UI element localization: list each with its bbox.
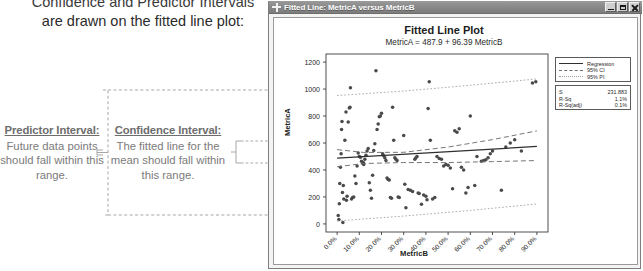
stats-key-rsqadj: R-Sq(adj) <box>559 102 599 108</box>
data-point <box>341 221 345 225</box>
data-point <box>473 184 477 188</box>
data-point <box>346 120 350 124</box>
callout-confidence-interval-title: Confidence Interval: <box>106 123 230 138</box>
stats-key-rsq: R-Sq <box>559 96 599 102</box>
data-point <box>509 141 513 145</box>
data-point <box>457 127 461 131</box>
stats-row: R-Sq(adj) 0.1% <box>559 102 627 109</box>
y-tick-label: 800 <box>308 113 320 120</box>
stats-row: R-Sq 1.1% <box>559 95 627 102</box>
window-title: Fitted Line: MetricA versus MetricB <box>284 3 414 12</box>
data-point <box>345 195 349 199</box>
data-point <box>531 81 535 85</box>
plot-svg: 0200400600800100012000.0%10.0%20.0%30.0%… <box>274 18 638 265</box>
data-point <box>370 197 374 201</box>
data-point <box>375 128 379 131</box>
x-tick-label: 80.0% <box>497 235 515 253</box>
data-point <box>338 182 342 186</box>
graph-canvas[interactable]: Fitted Line Plot MetricA = 487.9 + 96.39… <box>273 17 638 265</box>
data-point <box>342 184 346 188</box>
x-tick-label: 30.0% <box>386 235 404 253</box>
page-heading-line1: Confidence and Predictor Intervals <box>18 0 268 12</box>
data-point <box>534 80 538 84</box>
data-point <box>500 188 504 192</box>
window-titlebar[interactable]: Fitted Line: MetricA versus MetricB <box>269 1 642 14</box>
data-point <box>344 110 348 114</box>
x-tick-label: 40.0% <box>408 235 426 253</box>
data-point <box>404 206 408 210</box>
legend-label-pi: 95% PI <box>587 74 604 80</box>
callout-predictor-interval: Predictor Interval: Future data points s… <box>0 123 104 182</box>
data-point <box>464 191 468 195</box>
callout-predictor-interval-body: Future data points should fall within th… <box>0 140 104 181</box>
data-point <box>513 138 517 142</box>
data-point <box>451 187 455 191</box>
stats-panel: S 231.883 R-Sq 1.1% R-Sq(adj) 0.1% <box>555 85 631 110</box>
data-point <box>374 69 378 73</box>
data-point <box>368 181 372 185</box>
legend-label-ci: 95% CI <box>587 67 605 73</box>
x-tick-label: 50.0% <box>431 235 449 253</box>
page-heading-line2: are drawn on the fitted line plot: <box>18 12 268 31</box>
legend-swatch-pi <box>559 74 583 80</box>
stats-key-s: S <box>559 89 599 95</box>
data-point <box>373 142 377 146</box>
data-point <box>340 120 344 124</box>
legend-panel: Regression 95% CI 95% PI <box>555 57 631 82</box>
data-point <box>455 130 459 134</box>
data-point <box>345 199 349 203</box>
x-tick-label: 90.0% <box>519 235 537 253</box>
plus-graph-icon <box>272 3 281 12</box>
callout-confidence-interval-body: The fitted line for the mean should fall… <box>111 140 225 181</box>
data-point <box>392 139 396 143</box>
y-tick-label: 400 <box>308 167 320 174</box>
graph-window[interactable]: Fitted Line: MetricA versus MetricB Fitt… <box>268 1 641 269</box>
data-point <box>417 192 421 196</box>
data-point <box>352 195 356 199</box>
maximize-button[interactable] <box>617 2 628 12</box>
data-point <box>460 166 464 170</box>
data-point <box>449 166 453 170</box>
data-point <box>415 155 419 159</box>
data-point <box>425 198 429 202</box>
y-tick-label: 1200 <box>304 59 320 66</box>
x-tick-label: 60.0% <box>453 235 471 253</box>
data-point <box>475 155 479 159</box>
data-point <box>491 149 495 153</box>
data-point <box>427 80 431 84</box>
data-point <box>466 186 470 190</box>
data-point <box>338 202 342 206</box>
data-point <box>489 152 493 156</box>
y-tick-label: 200 <box>308 194 320 201</box>
data-point <box>354 182 358 186</box>
data-point <box>369 188 373 192</box>
window-controls <box>605 2 642 12</box>
close-icon[interactable] <box>629 2 640 12</box>
minimize-button[interactable] <box>605 2 616 12</box>
data-point <box>420 203 424 207</box>
stats-value-s: 231.883 <box>608 89 628 95</box>
data-point <box>343 139 347 143</box>
data-point <box>390 197 394 201</box>
data-point <box>380 112 384 116</box>
y-tick-label: 1000 <box>304 86 320 93</box>
data-point <box>469 114 473 118</box>
legend-swatch-ci <box>559 67 583 73</box>
data-point <box>520 149 524 153</box>
legend-item-pi: 95% PI <box>559 74 627 81</box>
data-point <box>429 139 433 143</box>
data-point <box>336 214 340 218</box>
data-point <box>424 195 428 199</box>
data-point <box>366 147 370 151</box>
data-point <box>446 164 450 168</box>
data-point <box>353 174 357 178</box>
y-tick-label: 0 <box>316 221 320 228</box>
callout-predictor-interval-title: Predictor Interval: <box>0 123 104 138</box>
x-tick-label: 70.0% <box>475 235 493 253</box>
x-tick-label: 20.0% <box>364 235 382 253</box>
data-point <box>384 159 388 163</box>
data-point <box>339 152 343 156</box>
data-point <box>486 156 490 160</box>
data-point <box>411 190 415 194</box>
legend-label-regression: Regression <box>587 61 614 67</box>
